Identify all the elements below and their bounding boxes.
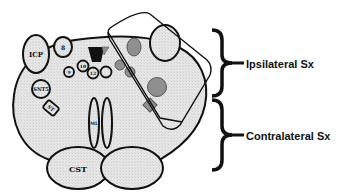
ml-right [102, 98, 112, 148]
icp-label: ICP [29, 50, 44, 59]
shaded-nucleus-4 [148, 78, 167, 97]
ipsilateral-brace [212, 30, 232, 96]
upper-right-ellipse [150, 25, 180, 61]
ml-label: ML [90, 121, 99, 126]
diagram-canvas: CST ICP 8 10 9 12 SNT5 ST ML [0, 0, 343, 194]
shaded-nucleus-1 [127, 38, 141, 56]
unlabeled-circle [101, 67, 112, 78]
contralateral-brace [212, 100, 232, 170]
cst-label: CST [69, 164, 87, 174]
n8-label: 8 [61, 44, 65, 51]
n10-label: 10 [80, 64, 86, 69]
contralateral-label: Contralateral Sx [246, 130, 330, 142]
ipsilateral-label: Ipsilateral Sx [246, 58, 314, 70]
cst-right [101, 147, 163, 189]
n12-label: 12 [90, 71, 96, 76]
snt5-label: SNT5 [33, 86, 49, 92]
n9-label: 9 [67, 70, 70, 75]
